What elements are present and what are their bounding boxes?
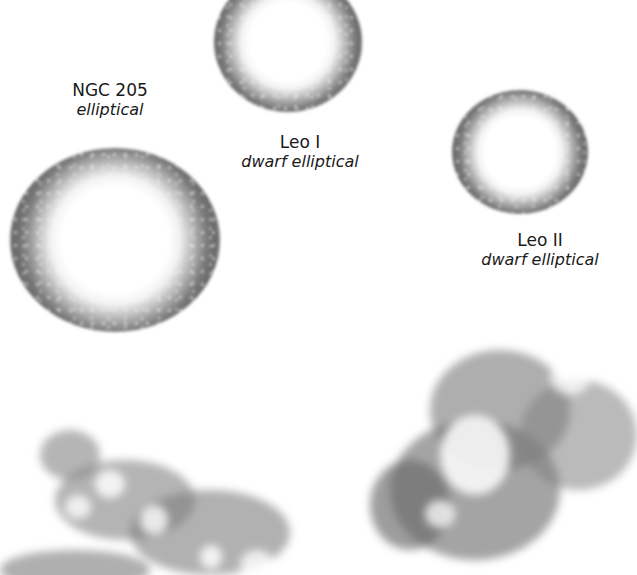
ngc-205-label: NGC 205 elliptical xyxy=(40,80,180,120)
irregular-galaxy-right xyxy=(370,320,637,575)
leo-i-galaxy xyxy=(214,0,362,112)
galaxy-type: dwarf elliptical xyxy=(220,152,380,171)
galaxy-name: Leo II xyxy=(455,230,625,250)
galaxy-type: dwarf elliptical xyxy=(455,250,625,269)
leo-ii-galaxy xyxy=(452,90,588,214)
ngc-205-galaxy xyxy=(10,148,220,332)
ngc-205-stars xyxy=(10,148,220,332)
leo-i-label: Leo I dwarf elliptical xyxy=(220,132,380,172)
galaxy-name: NGC 205 xyxy=(40,80,180,100)
irregular-galaxy-left xyxy=(0,400,320,575)
leo-i-stars xyxy=(214,0,362,112)
leo-ii-stars xyxy=(452,90,588,214)
galaxy-name: Leo I xyxy=(220,132,380,152)
leo-ii-label: Leo II dwarf elliptical xyxy=(455,230,625,270)
galaxy-type: elliptical xyxy=(40,100,180,119)
